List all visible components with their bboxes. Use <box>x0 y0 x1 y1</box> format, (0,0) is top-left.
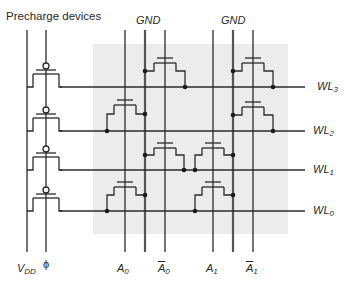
wl1-label: WL1 <box>313 163 334 177</box>
vdd-label: VDD <box>17 262 36 276</box>
gnd-label-1: GND <box>136 14 160 26</box>
precharge-device-0 <box>27 187 62 211</box>
a0-bar-label: A0 <box>158 262 170 276</box>
precharge-devices-label: Precharge devices <box>6 10 101 22</box>
decoder-circuit-diagram <box>0 0 348 289</box>
precharge-device-1 <box>27 146 62 170</box>
phi-label: ϕ <box>43 258 49 270</box>
precharge-device-2 <box>27 107 62 131</box>
gnd-label-2: GND <box>221 14 245 26</box>
a1-bar-label: A1 <box>246 262 258 276</box>
wl0-label: WL0 <box>313 204 334 218</box>
array-region <box>93 44 288 234</box>
precharge-device-3 <box>27 63 62 87</box>
wl2-label: WL2 <box>313 124 334 138</box>
wl3-label: WL3 <box>317 80 338 94</box>
a0-label: A0 <box>117 262 129 276</box>
a1-label: A1 <box>206 262 218 276</box>
